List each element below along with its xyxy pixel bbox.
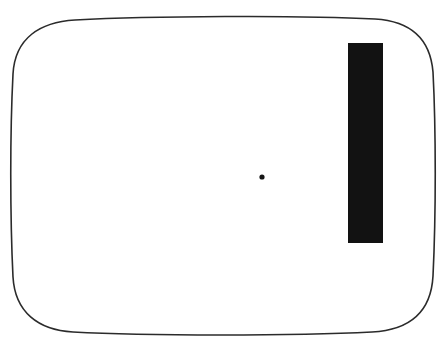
figure-drawing (0, 0, 448, 349)
vertical-black-bar (348, 43, 383, 243)
center-fixation-dot (259, 174, 264, 179)
figure-canvas (0, 0, 448, 349)
